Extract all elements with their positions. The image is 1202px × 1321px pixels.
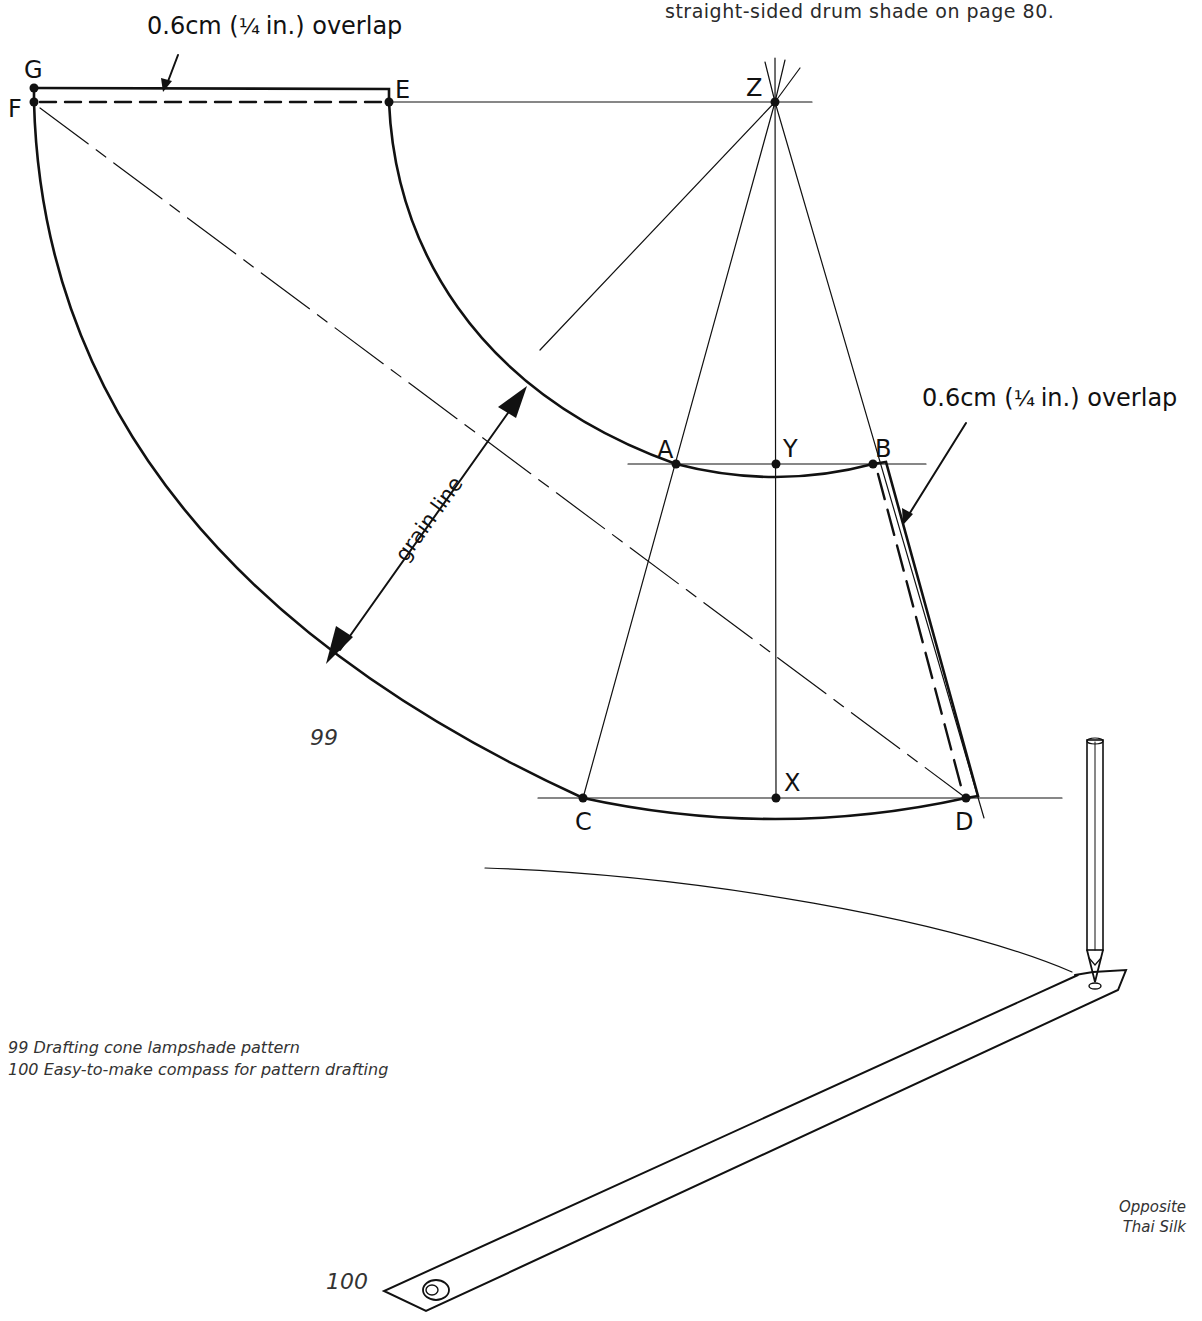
point-markers xyxy=(30,84,971,803)
diagonal-dashed-line xyxy=(40,108,966,798)
point-label-e: E xyxy=(395,78,410,102)
right-overlap-dashed-line xyxy=(878,474,962,790)
callout-top-suffix: in.) overlap xyxy=(258,12,402,40)
point-label-c: C xyxy=(575,810,592,834)
callout-top-fraction: ¼ xyxy=(239,14,258,39)
callout-right-suffix: in.) overlap xyxy=(1033,384,1177,412)
overlap-callout-right: 0.6cm (¼ in.) overlap xyxy=(922,386,1177,410)
figure-number-100: 100 xyxy=(326,1271,368,1293)
caption-99: 99 Drafting cone lampshade pattern xyxy=(8,1037,388,1059)
point-label-a: A xyxy=(657,438,673,462)
point-label-g: G xyxy=(24,58,43,82)
point-label-z: Z xyxy=(746,76,762,100)
opposite-note: Opposite Thai Silk xyxy=(1119,1197,1186,1237)
figure-captions: 99 Drafting cone lampshade pattern 100 E… xyxy=(8,1037,388,1081)
caption-100: 100 Easy-to-make compass for pattern dra… xyxy=(8,1059,388,1081)
pattern-outline xyxy=(34,88,978,819)
opposite-note-line2: Thai Silk xyxy=(1119,1217,1186,1237)
point-label-x: X xyxy=(784,771,800,795)
callout-right-fraction: ¼ xyxy=(1014,386,1033,411)
lampshade-pattern-diagram xyxy=(0,0,1202,1321)
figure-number-99: 99 xyxy=(310,727,338,749)
intro-text: straight-sided drum shade on page 80. xyxy=(665,2,1054,21)
overlap-callout-top: 0.6cm (¼ in.) overlap xyxy=(147,14,402,38)
compass-illustration xyxy=(384,738,1126,1311)
callout-arrows xyxy=(167,55,966,516)
callout-right-prefix: 0.6cm ( xyxy=(922,384,1014,412)
point-label-f: F xyxy=(8,97,22,121)
book-page: straight-sided drum shade on page 80. 0.… xyxy=(0,0,1202,1321)
opposite-note-line1: Opposite xyxy=(1119,1197,1186,1217)
callout-top-prefix: 0.6cm ( xyxy=(147,12,239,40)
point-label-b: B xyxy=(875,437,891,461)
point-label-d: D xyxy=(955,810,973,834)
point-label-y: Y xyxy=(783,437,798,461)
